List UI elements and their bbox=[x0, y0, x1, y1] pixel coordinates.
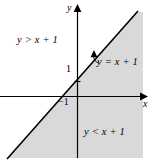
y-axis-tick-label-1: 1 bbox=[66, 64, 71, 74]
y-axis-label: y bbox=[67, 3, 72, 13]
line-equation-label: y = x + 1 bbox=[97, 57, 138, 68]
region-label-below: y < x + 1 bbox=[84, 127, 125, 138]
x-axis-label: x bbox=[143, 99, 148, 109]
x-axis-tick-label-neg1: −1 bbox=[58, 97, 69, 107]
y-axis-arrowhead bbox=[74, 4, 82, 12]
region-label-above: y > x + 1 bbox=[17, 35, 58, 46]
graph-canvas bbox=[0, 0, 155, 166]
inequality-graph-figure: y > x + 1 y = x + 1 y < x + 1 y x 1 −1 bbox=[0, 0, 155, 166]
